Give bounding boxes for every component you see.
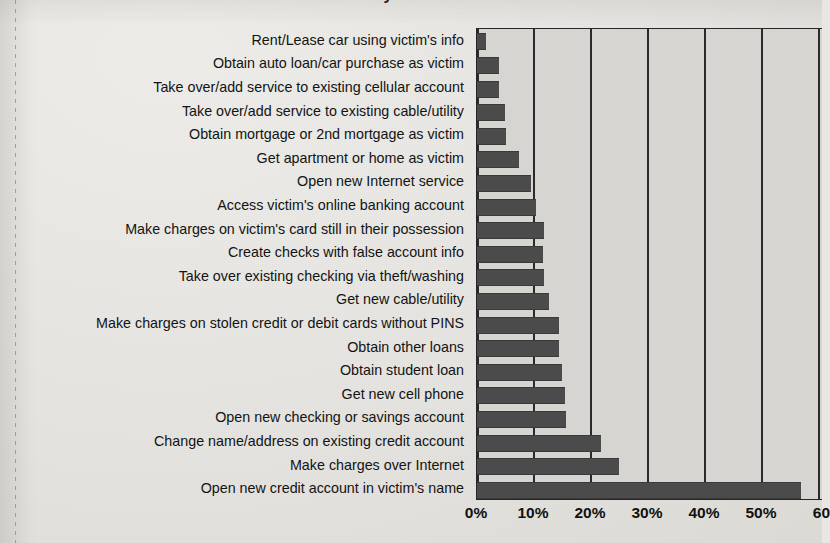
x-tick-label: 10% xyxy=(517,504,548,522)
category-label: Change name/address on existing credit a… xyxy=(154,434,464,448)
bar xyxy=(477,57,499,74)
category-label: Get new cable/utility xyxy=(336,292,464,306)
category-label: Get apartment or home as victim xyxy=(257,151,464,165)
x-axis-tick-labels: 0%10%20%30%40%50%60 xyxy=(0,504,822,532)
chart-plot-area xyxy=(476,28,822,500)
bar-series xyxy=(477,29,822,499)
x-tick-label: 20% xyxy=(574,504,605,522)
category-axis-labels: Rent/Lease car using victim's infoObtain… xyxy=(0,28,470,500)
category-label: Rent/Lease car using victim's info xyxy=(251,33,464,47)
bar xyxy=(477,317,559,334)
x-tick-label: 50% xyxy=(745,504,776,522)
category-label: Create checks with false account info xyxy=(228,245,464,259)
category-label: Make charges on stolen credit or debit c… xyxy=(96,316,464,330)
category-label: Take over existing checking via theft/wa… xyxy=(179,269,464,283)
bar xyxy=(477,411,566,428)
category-label: Access victim's online banking account xyxy=(217,198,464,212)
x-tick-label: 0% xyxy=(465,504,487,522)
category-label: Get new cell phone xyxy=(342,387,464,401)
bar xyxy=(477,81,499,98)
bar xyxy=(477,364,562,381)
category-label: Obtain auto loan/car purchase as victim xyxy=(213,56,464,70)
bar xyxy=(477,293,549,310)
category-label: Obtain mortgage or 2nd mortgage as victi… xyxy=(189,127,464,141)
category-label: Make charges on victim's card still in t… xyxy=(125,222,464,236)
x-tick-label: 60 xyxy=(813,504,830,522)
x-tick-label: 40% xyxy=(688,504,719,522)
bar xyxy=(477,482,801,499)
bar xyxy=(477,128,506,145)
bar xyxy=(477,458,619,475)
bar xyxy=(477,33,486,50)
bar xyxy=(477,199,536,216)
bar xyxy=(477,151,519,168)
category-label: Take over/add service to existing cellul… xyxy=(153,80,464,94)
bar xyxy=(477,175,531,192)
bar xyxy=(477,246,543,263)
category-label: Open new Internet service xyxy=(297,174,464,188)
bar xyxy=(477,340,559,357)
category-label: Obtain other loans xyxy=(347,340,464,354)
category-label: Open new credit account in victim's name xyxy=(201,481,464,495)
category-label: Obtain student loan xyxy=(340,363,464,377)
category-label: Open new checking or savings account xyxy=(215,410,464,424)
bar xyxy=(477,435,601,452)
bar xyxy=(477,104,505,121)
bar xyxy=(477,387,565,404)
chart-title: Identity Information xyxy=(0,0,822,4)
bar xyxy=(477,222,544,239)
category-label: Take over/add service to existing cable/… xyxy=(182,104,464,118)
x-tick-label: 30% xyxy=(631,504,662,522)
bar xyxy=(477,269,544,286)
category-label: Make charges over Internet xyxy=(290,458,464,472)
